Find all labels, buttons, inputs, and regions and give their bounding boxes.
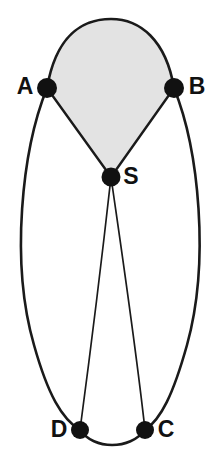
- edge-d-c: [80, 430, 145, 445]
- node-label-d: D: [51, 416, 68, 442]
- node-s[interactable]: [102, 168, 121, 187]
- graph-diagram: A B S D C: [0, 0, 219, 465]
- node-a[interactable]: [37, 78, 57, 98]
- node-label-c: C: [158, 416, 175, 442]
- graph-canvas: A B S D C: [0, 0, 219, 465]
- edge-s-c: [111, 177, 145, 430]
- node-b[interactable]: [164, 78, 184, 98]
- edge-s-d: [80, 177, 111, 430]
- edge-b-c: [145, 88, 200, 430]
- node-label-b: B: [189, 73, 206, 99]
- node-d[interactable]: [71, 421, 89, 439]
- node-c[interactable]: [136, 421, 154, 439]
- node-label-s: S: [123, 163, 138, 189]
- node-label-a: A: [17, 73, 34, 99]
- edge-a-d: [21, 88, 80, 430]
